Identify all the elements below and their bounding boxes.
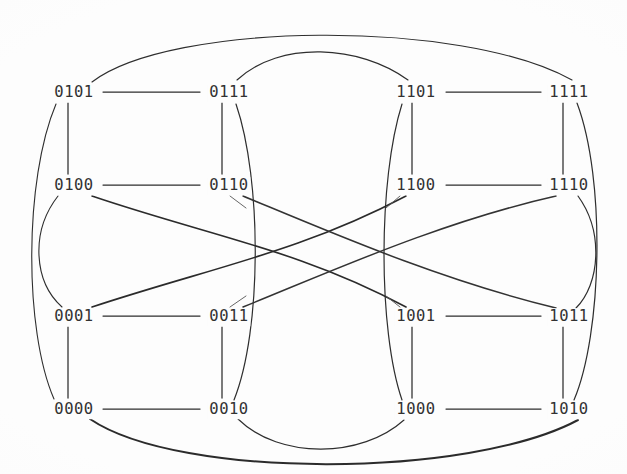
straight-vertical-edges: [68, 103, 563, 398]
edge-0111-0010-arc: [234, 104, 255, 400]
node-label-1101[interactable]: 1101: [394, 84, 437, 102]
node-label-0001[interactable]: 0001: [52, 308, 95, 326]
node-label-1011[interactable]: 1011: [547, 308, 590, 326]
edge-0110-1011-arc: [243, 196, 556, 308]
node-label-1110[interactable]: 1110: [547, 177, 590, 195]
left-arcs: [32, 104, 62, 399]
middle-arcs: [92, 196, 556, 308]
node-label-0011[interactable]: 0011: [207, 308, 250, 326]
node-label-0000[interactable]: 0000: [52, 401, 95, 419]
edge-0011-1110-arc: [243, 196, 556, 307]
node-label-0100[interactable]: 0100: [52, 177, 95, 195]
right-arcs: [574, 103, 597, 400]
node-label-1000[interactable]: 1000: [394, 401, 437, 419]
stub-0011-up: [230, 296, 246, 307]
edge-0001-1100-arc: [92, 196, 406, 307]
node-label-1111[interactable]: 1111: [547, 84, 590, 102]
stub-1100-down: [386, 196, 400, 208]
node-label-0111[interactable]: 0111: [207, 84, 250, 102]
node-label-1010[interactable]: 1010: [547, 401, 590, 419]
hypercube-figure: 0101 0111 1101 1111 0100 0110 1100 1110 …: [0, 0, 627, 474]
node-label-1100[interactable]: 1100: [394, 177, 437, 195]
stub-1001-up: [386, 296, 400, 307]
bottom-arcs: [90, 419, 578, 464]
edge-0111-1101-arc: [237, 52, 408, 80]
edge-1111-1010-arc: [574, 103, 597, 400]
edge-1101-1000-arc: [384, 104, 402, 400]
edge-0101-0000-arc: [32, 104, 56, 399]
edge-0100-0001-arc: [39, 196, 62, 307]
edge-0000-1010-arc: [90, 419, 578, 464]
stub-0110-down: [230, 196, 246, 208]
top-arcs: [92, 35, 572, 82]
edge-0100-1001-arc: [92, 196, 406, 307]
edge-0101-1111-arc: [92, 35, 572, 82]
node-label-0010[interactable]: 0010: [207, 401, 250, 419]
edge-1110-1011-arc: [576, 196, 596, 308]
node-label-0101[interactable]: 0101: [52, 84, 95, 102]
straight-horizontal-edges: [103, 92, 541, 409]
node-label-0110[interactable]: 0110: [207, 177, 250, 195]
edge-0010-1000-arc: [238, 419, 404, 449]
node-label-1001[interactable]: 1001: [394, 308, 437, 326]
